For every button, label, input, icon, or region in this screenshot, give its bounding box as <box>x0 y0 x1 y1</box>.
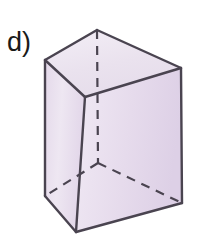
hidden-edge-vertical-back <box>97 30 98 163</box>
part-label: d) <box>7 27 31 57</box>
edge-right-vertical <box>181 68 182 203</box>
figure-panel: d) <box>0 0 206 242</box>
